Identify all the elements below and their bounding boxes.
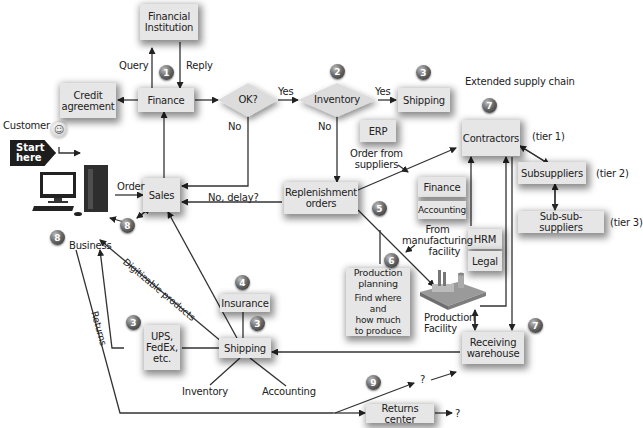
returns-center-label: Returns center — [366, 403, 434, 425]
sub-sub-suppliers-label: Sub-sub-suppliers — [518, 211, 604, 233]
sales-box[interactable]: Sales — [143, 178, 180, 212]
accounting-side-label: Accounting — [418, 205, 466, 216]
inventory-leg-label: Inventory — [182, 386, 228, 397]
production-planning-label-1: Production — [354, 267, 403, 278]
no-label-1: No — [228, 121, 241, 132]
customer-label: Customer — [3, 120, 50, 131]
ups-label-1: UPS, — [151, 331, 173, 342]
from-manufacturing-label: From manufacturing facility — [402, 224, 473, 257]
customer-smiley-icon: ☺ — [51, 122, 67, 138]
reply-label: Reply — [186, 60, 213, 71]
yes-label-1: Yes — [278, 86, 294, 97]
accounting-leg-label: Accounting — [262, 386, 316, 397]
subsuppliers-label: Subsuppliers — [521, 168, 583, 179]
tier-1-label: (tier 1) — [532, 131, 565, 142]
hrm-box[interactable]: HRM — [468, 229, 502, 249]
question-mark-2: ? — [455, 408, 460, 419]
financial-institution-label-2: Institution — [145, 22, 193, 33]
order-from-label-1: Order from — [350, 148, 403, 159]
shipping-top-label: Shipping — [403, 95, 445, 106]
finance-label: Finance — [148, 95, 185, 106]
step-badge-8-a: 8 — [120, 218, 135, 233]
from-mfg-label-2: manufacturing — [402, 235, 473, 246]
ups-label-3: etc. — [153, 353, 171, 364]
credit-agreement-box[interactable]: Credit agreement — [60, 83, 116, 118]
production-facility-label-1: Production — [424, 312, 475, 323]
shipping-top-box[interactable]: Shipping — [398, 88, 450, 112]
ups-fedex-box[interactable]: UPS, FedEx, etc. — [144, 325, 180, 370]
step-badge-7-bottom: 7 — [528, 318, 543, 333]
sub-sub-suppliers-box[interactable]: Sub-sub-suppliers — [518, 211, 604, 233]
subsuppliers-box[interactable]: Subsuppliers — [518, 162, 586, 184]
question-mark-1: ? — [420, 374, 425, 385]
step-badge-5: 5 — [372, 201, 387, 216]
contractors-label: Contractors — [463, 133, 519, 144]
step-badge-6: 6 — [384, 253, 399, 268]
finance-box[interactable]: Finance — [138, 88, 194, 112]
ok-decision-label: OK? — [234, 94, 262, 105]
computer-icon — [32, 165, 108, 216]
query-label: Query — [119, 60, 148, 71]
finance-side-label: Finance — [424, 182, 461, 193]
replenishment-label-2: orders — [306, 198, 337, 209]
legal-label: Legal — [472, 256, 498, 267]
step-badge-4: 4 — [235, 275, 250, 290]
step-badge-1: 1 — [159, 65, 174, 80]
production-planning-label-2: planning — [358, 278, 398, 289]
shipping-bottom-box[interactable]: Shipping — [219, 338, 271, 358]
step-badge-3-ups: 3 — [126, 315, 141, 330]
erp-label: ERP — [369, 126, 388, 137]
financial-institution-label-1: Financial — [148, 11, 190, 22]
sales-label: Sales — [149, 190, 175, 201]
financial-institution-box[interactable]: Financial Institution — [140, 4, 198, 40]
accounting-side-box[interactable]: Accounting — [418, 201, 466, 219]
business-label: Business — [69, 240, 112, 251]
tier-2-label: (tier 2) — [596, 168, 629, 179]
contractors-box[interactable]: Contractors — [462, 120, 520, 156]
step-badge-8-b: 8 — [50, 230, 65, 245]
production-planning-note-3: to produce — [355, 326, 402, 337]
production-facility-icon — [420, 270, 486, 310]
production-facility-label: Production Facility — [424, 312, 475, 334]
yes-label-2: Yes — [375, 86, 391, 97]
step-badge-3-top: 3 — [416, 65, 431, 80]
insurance-box[interactable]: Insurance — [220, 294, 270, 312]
order-label: Order — [117, 181, 144, 192]
no-delay-label: No, delay? — [208, 192, 259, 203]
step-badge-9: 9 — [366, 375, 381, 390]
order-from-suppliers-label: Order from suppliers — [350, 148, 403, 170]
hrm-label: HRM — [474, 234, 497, 245]
erp-box[interactable]: ERP — [360, 120, 396, 142]
credit-agreement-label-2: agreement — [61, 101, 114, 112]
shipping-bottom-label: Shipping — [224, 343, 266, 354]
step-badge-7-top: 7 — [482, 98, 497, 113]
from-mfg-label-1: From — [402, 224, 473, 235]
step-badge-3-ship: 3 — [250, 316, 265, 331]
receiving-label-2: warehouse — [467, 348, 520, 359]
ups-label-2: FedEx, — [146, 342, 178, 353]
legal-box[interactable]: Legal — [468, 251, 502, 271]
tier-3-label: (tier 3) — [610, 217, 643, 228]
inventory-decision-label: Inventory — [312, 94, 362, 105]
replenishment-label-1: Replenishment — [285, 187, 357, 198]
no-label-2: No — [318, 121, 331, 132]
credit-agreement-label-1: Credit — [74, 90, 103, 101]
receiving-label-1: Receiving — [470, 337, 517, 348]
from-mfg-label-3: facility — [402, 246, 473, 257]
insurance-label: Insurance — [221, 298, 268, 309]
replenishment-orders-box[interactable]: Replenishment orders — [284, 182, 358, 214]
receiving-warehouse-box[interactable]: Receiving warehouse — [462, 332, 524, 364]
finance-side-box[interactable]: Finance — [418, 177, 466, 197]
order-from-label-2: suppliers — [350, 159, 403, 170]
step-badge-2: 2 — [330, 64, 345, 79]
production-planning-box[interactable]: Production planning Find where and how m… — [346, 268, 410, 336]
extended-supply-chain-label: Extended supply chain — [465, 76, 575, 87]
production-planning-note-2: how much — [356, 315, 401, 326]
returns-center-box[interactable]: Returns center — [366, 404, 434, 423]
production-facility-label-2: Facility — [424, 323, 475, 334]
production-planning-note-1: Find where and — [346, 293, 410, 315]
